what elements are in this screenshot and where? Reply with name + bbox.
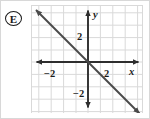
graph-figure: E <box>0 0 150 119</box>
coordinate-plane: 2 −2 −2 2 x y <box>31 5 143 113</box>
coordinate-plane-svg <box>31 5 143 113</box>
x-axis-tick-label-negative-2: −2 <box>44 69 55 79</box>
y-axis-tick-label-negative-2: −2 <box>73 89 84 99</box>
x-axis-name-label: x <box>129 67 134 77</box>
answer-choice-badge[interactable]: E <box>5 11 22 26</box>
y-axis-name-label: y <box>93 10 98 20</box>
x-axis-tick-label-2: 2 <box>104 69 109 79</box>
y-axis-tick-label-2: 2 <box>77 32 82 42</box>
